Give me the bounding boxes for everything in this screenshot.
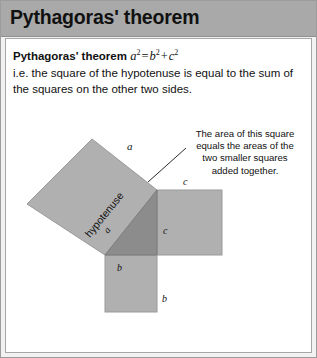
label-square-b-side: b xyxy=(162,293,167,304)
square-on-side-b xyxy=(105,255,157,312)
callout-line-4: added together. xyxy=(183,165,307,177)
pythagoras-diagram: a c c b b hypotenuse a xyxy=(5,38,312,353)
label-square-c-top: c xyxy=(183,176,188,187)
page-title: Pythagoras' theorem xyxy=(10,6,199,29)
callout-line-1: The area of this square xyxy=(183,128,307,140)
card-header-band: Pythagoras' theorem xyxy=(1,1,316,37)
callout-note: The area of this square equals the areas… xyxy=(183,128,307,177)
diagram-canvas: a c c b b hypotenuse a xyxy=(5,38,312,353)
square-on-side-c xyxy=(157,190,222,255)
label-square-a: a xyxy=(127,140,133,152)
callout-line-2: equals the areas of the xyxy=(183,140,307,152)
pythagoras-theorem-card: Pythagoras' theorem Pythagoras' theorem … xyxy=(0,0,317,358)
label-square-c-side: c xyxy=(163,225,168,236)
callout-line-3: two smaller squares xyxy=(183,152,307,164)
label-square-b-top: b xyxy=(117,262,122,273)
callout-leader-line xyxy=(148,148,186,182)
